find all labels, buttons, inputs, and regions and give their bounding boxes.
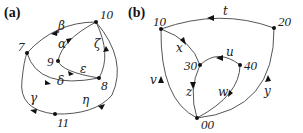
node-label-b-20: 20 bbox=[278, 14, 292, 29]
edge-label-v: v bbox=[150, 73, 157, 87]
edge-label-z: z bbox=[185, 85, 193, 99]
edge-label-alpha: α bbox=[58, 37, 66, 51]
diagram-canvas: (a) β α ζ ε δ γ η 10 bbox=[0, 0, 303, 133]
node-label-a-9: 9 bbox=[47, 54, 54, 69]
arrow-gamma-icon bbox=[30, 109, 37, 114]
node-label-b-30: 30 bbox=[183, 58, 198, 73]
edge-label-beta: β bbox=[57, 19, 65, 33]
edge-label-t: t bbox=[223, 4, 228, 18]
edge-label-delta: δ bbox=[57, 74, 64, 88]
node-a-7 bbox=[25, 51, 29, 55]
node-label-a-10: 10 bbox=[100, 7, 114, 22]
edge-label-w: w bbox=[218, 85, 229, 99]
edge-y bbox=[197, 28, 274, 118]
edge-label-epsilon: ε bbox=[80, 62, 86, 76]
edge-label-eta: η bbox=[82, 93, 90, 107]
arrow-v-icon bbox=[158, 76, 164, 83]
panel-a: (a) β α ζ ε δ γ η 10 bbox=[4, 5, 117, 130]
node-b-00 bbox=[195, 116, 199, 120]
edge-label-zeta: ζ bbox=[94, 37, 102, 51]
node-a-10 bbox=[94, 20, 98, 24]
node-label-b-10: 10 bbox=[153, 14, 167, 29]
edge-label-y: y bbox=[263, 84, 271, 98]
arrow-u-icon bbox=[216, 55, 223, 61]
node-label-a-8: 8 bbox=[101, 78, 108, 93]
arrow-delta-icon bbox=[45, 80, 51, 85]
panel-b: (b) t x u v z w y 10 bbox=[128, 4, 292, 132]
node-label-b-40: 40 bbox=[244, 58, 258, 73]
panel-a-label: (a) bbox=[4, 5, 21, 21]
panel-b-label: (b) bbox=[128, 5, 145, 21]
node-b-40 bbox=[238, 63, 242, 67]
node-b-30 bbox=[198, 63, 202, 67]
node-b-20 bbox=[272, 26, 276, 30]
edge-label-gamma: γ bbox=[30, 91, 38, 105]
node-label-a-7: 7 bbox=[18, 39, 25, 54]
node-a-9 bbox=[56, 59, 60, 63]
edge-label-x: x bbox=[176, 41, 183, 55]
edge-label-u: u bbox=[226, 45, 234, 59]
node-label-a-11: 11 bbox=[57, 115, 69, 130]
arrow-eta-icon bbox=[98, 104, 105, 110]
arrow-y-icon bbox=[265, 75, 271, 82]
node-label-b-00: 00 bbox=[201, 117, 215, 132]
arrow-t-icon bbox=[207, 15, 214, 21]
edge-t bbox=[161, 18, 274, 29]
